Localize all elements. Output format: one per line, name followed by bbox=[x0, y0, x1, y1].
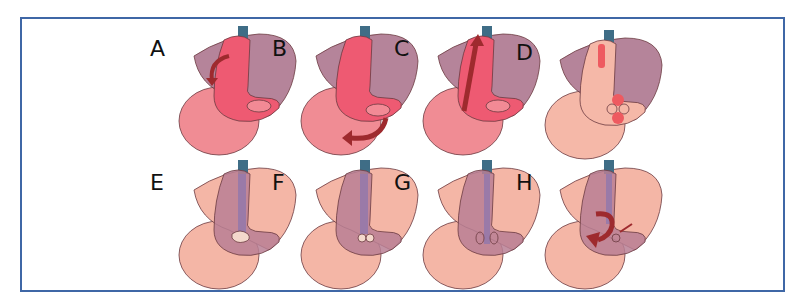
panel-label: F bbox=[272, 170, 285, 195]
panel-d: D bbox=[516, 30, 666, 160]
panel-label: A bbox=[150, 36, 165, 61]
panel-label: D bbox=[516, 40, 533, 65]
panel-label: H bbox=[516, 170, 533, 195]
organ-illustration bbox=[550, 30, 666, 160]
panel-label: B bbox=[272, 36, 287, 61]
panel-h: H bbox=[516, 160, 666, 290]
panel-label: E bbox=[150, 170, 164, 195]
organ-illustration bbox=[550, 160, 666, 290]
panel-label: G bbox=[394, 170, 411, 195]
panel-label: C bbox=[394, 36, 409, 61]
